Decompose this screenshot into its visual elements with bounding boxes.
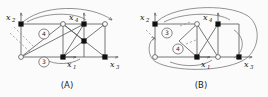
node-top-mid-open (195, 22, 200, 27)
vertex-label-x3-sub: 3 (250, 64, 254, 70)
panel-a-lattice-edges (21, 24, 105, 57)
circled-label-4: 4 (39, 29, 49, 39)
dashed-edge-inner-left (14, 27, 34, 47)
panel-a-dashed-edges (10, 27, 34, 52)
vertex-label-x4-base: x (203, 13, 208, 22)
node-bottom-left-open (19, 55, 24, 60)
panel-a-caption: (A) (61, 80, 73, 90)
vertex-label-x1-sub: 1 (207, 64, 210, 70)
loop-inner-arc-top (164, 14, 230, 22)
node-top-right-open (103, 22, 108, 27)
arc-bottom-small (45, 59, 80, 64)
circled-label-3-text: 3 (165, 29, 169, 36)
node-x3-filled (102, 54, 107, 59)
node-x4-filled (81, 21, 86, 26)
node-x4-filled (215, 21, 220, 26)
vertex-label-x1-base: x (67, 60, 72, 69)
node-x2-filled (152, 21, 157, 26)
loop-inner-arc-right (234, 30, 242, 58)
diagonal-mid-join (63, 24, 84, 41)
diagonal-up-right-long (21, 24, 84, 57)
vertex-label-x3-base: x (110, 60, 115, 69)
node-top-mid-open (61, 22, 66, 27)
panel-b-circled-labels: 3 4 (162, 28, 183, 54)
dashed-edge-mid-b (186, 40, 196, 44)
node-x3-filled (236, 54, 241, 59)
vertex-label-x3-base: x (244, 60, 249, 69)
diagonal-left-upper-b (179, 24, 197, 41)
circled-label-4-text: 4 (42, 30, 46, 37)
vertex-label-x4-base: x (69, 13, 74, 22)
node-bottom-left-open (153, 55, 158, 60)
node-bottom-inner-open (216, 55, 221, 60)
vertex-label-x2-base: x (6, 13, 11, 22)
vertex-label-x1-base: x (201, 60, 206, 69)
vertex-label-x2-sub: 2 (145, 17, 150, 23)
panel-a-arc (21, 8, 112, 63)
vertex-label-x4-sub: 4 (208, 17, 213, 23)
panel-b-caption: (B) (195, 80, 207, 90)
loop-inner-arc-bottom (170, 60, 212, 66)
vertex-label-x1-sub: 1 (73, 64, 76, 70)
figure-container: 4 3 x 2 x 4 x 1 x 3 (0, 0, 268, 97)
vertex-label-x2: x 2 (6, 13, 16, 23)
panel-a: 4 3 x 2 x 4 x 1 x 3 (0, 0, 134, 97)
node-x2-filled (18, 21, 23, 26)
node-x1-filled (194, 54, 199, 59)
arc-top-long (21, 8, 112, 24)
circled-label-3: 3 (162, 28, 172, 38)
vertex-label-x3: x 3 (110, 60, 120, 70)
panel-b: 3 4 x 2 x 4 x 1 x 3 (134, 0, 268, 97)
vertex-label-x3: x 3 (244, 60, 254, 70)
panel-a-circled-labels: 4 3 (39, 29, 49, 67)
diagonal-down-left (63, 24, 84, 57)
circled-label-3: 3 (39, 57, 49, 67)
circled-label-4-text: 4 (176, 45, 180, 52)
vertex-label-x2-base: x (140, 13, 145, 22)
circled-label-3-text: 3 (42, 58, 46, 65)
node-center-filled (81, 38, 86, 43)
dashed-edge-outer-left (10, 33, 30, 52)
vertex-label-x4-sub: 4 (74, 17, 79, 23)
panel-b-diagonals (179, 24, 218, 57)
vertex-label-x2-sub: 2 (11, 17, 16, 23)
vertex-label-x2: x 2 (140, 13, 150, 23)
vertex-label-x4: x 4 (69, 13, 79, 23)
circled-label-4: 4 (173, 44, 183, 54)
node-x1-filled (60, 54, 65, 59)
vertex-label-x3-sub: 3 (116, 64, 120, 70)
